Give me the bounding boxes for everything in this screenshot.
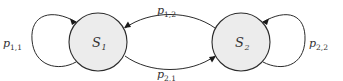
state-s2: S2 — [212, 13, 270, 71]
label-p22: p2,2 — [309, 37, 328, 52]
edge-lower — [125, 56, 216, 70]
markov-chain-diagram: S1 S2 p1,1 p1,2 p2,1 p2,2 — [0, 0, 343, 81]
label-p11: p1,1 — [3, 37, 22, 52]
label-p12: p1,2 — [157, 4, 176, 19]
state-s1-label: S — [92, 35, 101, 50]
state-s2-label: S — [235, 35, 244, 50]
state-s1: S1 — [69, 13, 127, 71]
